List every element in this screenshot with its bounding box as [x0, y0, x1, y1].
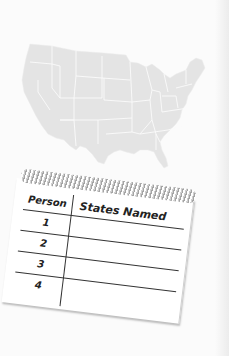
row-2-person: 2 — [39, 237, 47, 249]
notepad: Person States Named 1 2 3 4 — [1, 168, 199, 329]
row-4-person: 4 — [34, 279, 42, 291]
row-3-person: 3 — [37, 258, 45, 270]
row-1-person: 1 — [42, 216, 50, 228]
